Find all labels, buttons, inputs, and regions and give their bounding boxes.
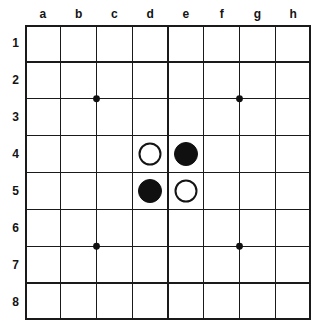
column-label-g: g — [240, 4, 276, 24]
column-label-e: e — [168, 4, 204, 24]
column-label-d: d — [132, 4, 168, 24]
column-label-b: b — [61, 4, 97, 24]
stone-black-e4[interactable] — [174, 142, 198, 166]
column-labels: a b c d e f g h — [25, 4, 311, 24]
column-label-c: c — [97, 4, 133, 24]
column-label-a: a — [25, 4, 61, 24]
row-label-1: 1 — [2, 25, 23, 62]
column-label-f: f — [204, 4, 240, 24]
stone-white-e5[interactable] — [174, 179, 197, 202]
stones-layer — [25, 25, 311, 320]
stone-white-d4[interactable] — [139, 143, 162, 166]
stone-black-d5[interactable] — [138, 179, 162, 203]
board-widget: a b c d e f g h 1 2 3 4 5 6 7 8 — [0, 0, 321, 333]
row-label-5: 5 — [2, 173, 23, 210]
board-grid[interactable] — [25, 25, 311, 320]
row-label-6: 6 — [2, 209, 23, 246]
row-labels: 1 2 3 4 5 6 7 8 — [2, 25, 23, 320]
row-label-3: 3 — [2, 99, 23, 136]
column-label-h: h — [275, 4, 311, 24]
row-label-4: 4 — [2, 136, 23, 173]
row-label-2: 2 — [2, 62, 23, 99]
row-label-7: 7 — [2, 246, 23, 283]
row-label-8: 8 — [2, 283, 23, 320]
